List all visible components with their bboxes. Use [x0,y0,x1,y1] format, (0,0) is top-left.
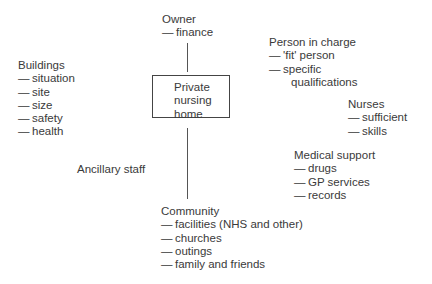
person-in-charge-node: Person in charge —'fit' person —specific… [269,36,357,89]
nurses-node: Nurses —sufficient —skills [348,98,407,138]
dash-icon: — [348,125,362,138]
community-item: —family and friends [161,258,303,271]
person-in-charge-item-label: specific [283,63,321,75]
dash-icon: — [161,245,175,258]
owner-title: Owner [162,13,213,26]
dash-icon: — [348,111,362,124]
buildings-item-label: health [32,125,63,137]
nurses-item: —sufficient [348,111,407,124]
community-item: —outings [161,245,303,258]
dash-icon: — [18,86,32,99]
dash-icon: — [294,162,308,175]
owner-item: —finance [162,26,213,39]
nurses-item-label: sufficient [362,111,407,123]
buildings-item: —health [18,125,75,138]
buildings-item-label: safety [32,112,63,124]
community-node: Community —facilities (NHS and other) —c… [161,205,303,271]
center-line-2: nursing [153,94,229,107]
buildings-item-label: site [32,86,50,98]
dash-icon: — [162,26,176,39]
dash-icon: — [294,189,308,202]
community-item-label: churches [175,232,222,244]
dash-icon: — [18,72,32,85]
medical-support-title: Medical support [294,149,375,162]
ancillary-staff-node: Ancillary staff [77,163,145,176]
person-in-charge-item-continuation: qualifications [269,76,357,89]
center-line-3: home [153,108,229,121]
buildings-item-label: situation [32,72,75,84]
buildings-item: —situation [18,72,75,85]
buildings-item: —site [18,86,75,99]
buildings-node: Buildings —situation —site —size —safety… [18,59,75,139]
dash-icon: — [161,258,175,271]
community-item: —facilities (NHS and other) [161,218,303,231]
medical-support-item-label: GP services [308,176,370,188]
medical-support-node: Medical support —drugs —GP services —rec… [294,149,375,202]
owner-item-label: finance [176,26,213,38]
medical-support-item: —records [294,189,375,202]
buildings-title: Buildings [18,59,75,72]
nurses-item: —skills [348,125,407,138]
dash-icon: — [18,125,32,138]
community-item: —churches [161,232,303,245]
person-in-charge-item-label: 'fit' person [283,49,335,61]
person-in-charge-title: Person in charge [269,36,357,49]
community-item-label: outings [175,245,212,257]
community-item-label: facilities (NHS and other) [175,218,303,230]
dash-icon: — [18,112,32,125]
nurses-title: Nurses [348,98,407,111]
central-node-private-nursing-home: Private nursing home [152,75,230,118]
dash-icon: — [269,63,283,76]
buildings-item-label: size [32,99,52,111]
dash-icon: — [161,218,175,231]
community-item-label: family and friends [175,258,265,270]
person-in-charge-item: —specific [269,63,357,76]
medical-support-item-label: records [308,189,346,201]
owner-node: Owner —finance [162,13,213,40]
buildings-item: —safety [18,112,75,125]
nurses-item-label: skills [362,125,387,137]
dash-icon: — [161,232,175,245]
medical-support-item: —GP services [294,176,375,189]
ancillary-staff-title: Ancillary staff [77,163,145,176]
person-in-charge-item: —'fit' person [269,49,357,62]
community-connector-line [187,128,188,199]
owner-connector-line [187,43,188,72]
dash-icon: — [294,176,308,189]
medical-support-item: —drugs [294,162,375,175]
buildings-item: —size [18,99,75,112]
dash-icon: — [269,49,283,62]
dash-icon: — [18,99,32,112]
community-title: Community [161,205,303,218]
center-line-1: Private [153,81,229,94]
medical-support-item-label: drugs [308,162,337,174]
